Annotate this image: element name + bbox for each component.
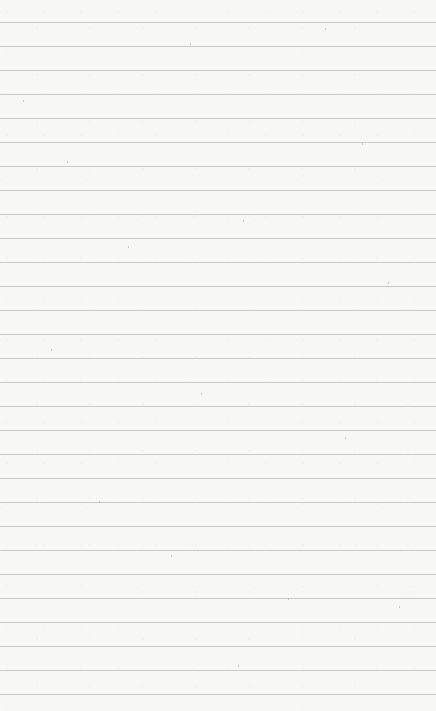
lined-paper [0,0,436,711]
paper-speck [23,100,24,102]
ruled-line [0,118,436,119]
ruled-line [0,46,436,47]
paper-speck [67,161,68,163]
ruled-line [0,286,436,287]
ruled-line [0,430,436,431]
paper-speck [345,437,346,439]
ruled-line [0,550,436,551]
ruled-line [0,406,436,407]
ruled-line [0,598,436,599]
ruled-line [0,70,436,71]
paper-speck [243,220,244,222]
ruled-line [0,382,436,383]
ruled-line [0,214,436,215]
ruled-line [0,478,436,479]
ruled-line [0,22,436,23]
ruled-line [0,334,436,335]
paper-speck [99,501,100,503]
ruled-line [0,574,436,575]
ruled-line [0,502,436,503]
ruled-line [0,694,436,695]
ruled-line [0,166,436,167]
ruled-line [0,454,436,455]
ruled-line [0,310,436,311]
paper-speck [201,393,202,395]
ruled-line [0,190,436,191]
ruled-line [0,358,436,359]
paper-speck [128,246,129,248]
ruled-line [0,238,436,239]
ruled-line [0,526,436,527]
paper-speck [388,282,389,284]
ruled-line [0,94,436,95]
paper-speck [362,143,363,145]
ruled-line [0,142,436,143]
ruled-line [0,262,436,263]
paper-speck [190,43,191,45]
paper-speck [171,555,172,557]
paper-speck [325,28,326,30]
ruled-line [0,646,436,647]
paper-speck [399,606,400,608]
paper-speck [288,598,289,600]
ruled-line [0,670,436,671]
paper-speck [51,349,52,351]
paper-speck [238,665,239,667]
ruled-line [0,622,436,623]
